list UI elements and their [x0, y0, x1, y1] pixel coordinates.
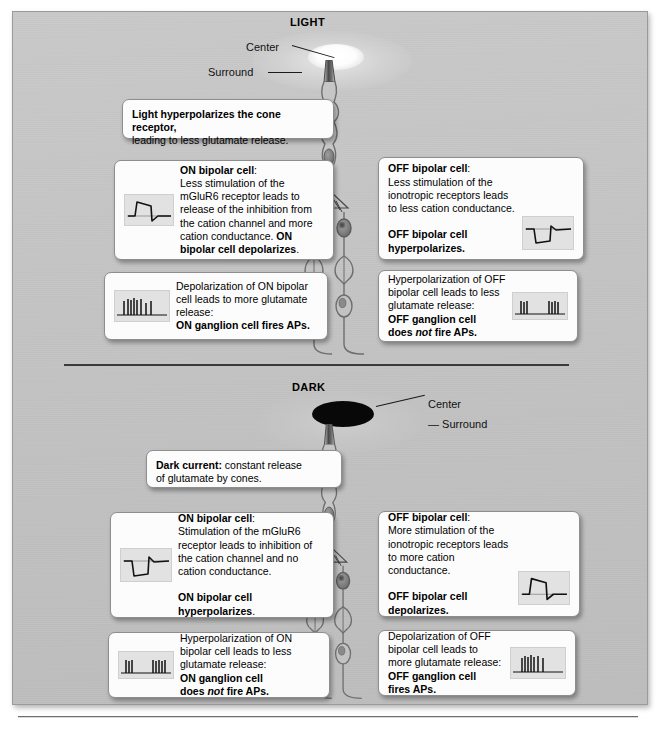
callout-dark-on-ganglion-c1: ON ganglion cell	[180, 672, 263, 684]
dark-surround-label: — Surround	[428, 418, 487, 430]
colon: :	[254, 164, 257, 176]
callout-light-off-bipolar-conclusion: OFF bipolar cell hyperpolarizes.	[388, 228, 467, 253]
callout-light-off-ganglion-body: Hyperpolarization of OFF bipolar cell le…	[388, 273, 505, 311]
hyperpolarizing-waveform-icon	[120, 548, 172, 582]
callout-dark-off-ganglion-c2: fires APs.	[388, 683, 436, 695]
callout-light-off-ganglion-c1: OFF ganglion cell	[388, 313, 476, 325]
callout-dark-on-bipolar-body: Stimulation of the mGluR6 receptor leads…	[178, 525, 312, 577]
callout-light-on-bipolar-heading: ON bipolar cell	[180, 164, 254, 176]
callout-dark-on-bipolar: ON bipolar cell: Stimulation of the mGlu…	[110, 512, 334, 618]
callout-light-cone: Light hyperpolarizes the cone receptor, …	[122, 99, 334, 139]
light-center-label: Center	[246, 41, 279, 53]
section-title-light: LIGHT	[290, 16, 325, 28]
callout-light-off-bipolar: OFF bipolar cell: Less stimulation of th…	[378, 157, 584, 260]
callout-dark-on-ganglion-body: Hyperpolarization of ON bipolar cell lea…	[180, 632, 292, 670]
callout-dark-on-bipolar-heading: ON bipolar cell	[178, 512, 252, 524]
callout-light-cone-line1: Light hyperpolarizes the cone receptor,	[132, 108, 281, 133]
colon: :	[467, 511, 470, 523]
callout-dark-off-bipolar-conclusion: OFF bipolar cell depolarizes.	[388, 590, 467, 615]
section-divider	[64, 364, 569, 366]
light-surround-label: Surround	[208, 66, 253, 78]
callout-dark-on-bipolar-conclusion: ON bipolar cell hyperpolarizes	[178, 591, 252, 616]
callout-light-on-ganglion-body: Depolarization of ON bipolar cell leads …	[176, 280, 308, 318]
callout-light-on-ganglion: Depolarization of ON bipolar cell leads …	[104, 272, 328, 340]
callout-dark-on-ganglion-italic: not	[207, 685, 223, 697]
callout-dark-current: Dark current: constant release of glutam…	[146, 450, 342, 488]
callout-light-on-bipolar-body: Less stimulation of the mGluR6 receptor …	[180, 177, 313, 242]
callout-dark-current-line1-rest: constant release	[222, 459, 302, 471]
callout-dark-off-ganglion: Depolarization of OFF bipolar cell leads…	[378, 630, 576, 696]
callout-dark-off-ganglion-c1: OFF ganglion cell	[388, 670, 476, 682]
callout-dark-current-line1-bold: Dark current:	[156, 459, 222, 471]
figure-root: LIGHT Center Surround	[0, 0, 660, 729]
depolarizing-waveform-icon	[518, 571, 570, 605]
callout-light-on-ganglion-conclusion: ON ganglion cell fires APs.	[176, 319, 310, 331]
callout-light-off-ganglion-c2: does	[388, 326, 415, 338]
spike-train-burst-icon	[510, 647, 566, 679]
depolarizing-waveform-icon	[124, 194, 174, 226]
spike-train-sparse-icon	[118, 651, 174, 679]
callout-light-off-bipolar-heading: OFF bipolar cell	[388, 162, 467, 174]
callout-dark-off-bipolar-heading: OFF bipolar cell	[388, 511, 467, 523]
spike-train-burst-icon	[114, 290, 170, 322]
hyperpolarizing-waveform-icon	[522, 216, 574, 250]
spike-train-sparse-icon	[512, 292, 568, 320]
callout-dark-off-ganglion-body: Depolarization of OFF bipolar cell leads…	[388, 630, 501, 668]
dark-center-label: Center	[428, 398, 461, 410]
callout-light-on-bipolar: ON bipolar cell: Less stimulation of the…	[114, 160, 334, 260]
callout-dark-on-ganglion-c2: does	[180, 685, 207, 697]
period: .	[252, 605, 255, 617]
callout-light-cone-line2: leading to less glutamate release.	[132, 134, 288, 146]
callout-dark-off-bipolar: OFF bipolar cell: More stimulation of th…	[378, 511, 580, 617]
callout-light-off-bipolar-body: Less stimulation of the ionotropic recep…	[388, 176, 515, 214]
callout-dark-on-ganglion-c3: fire APs.	[224, 685, 269, 697]
callout-dark-on-ganglion: Hyperpolarization of ON bipolar cell lea…	[108, 632, 330, 698]
callout-light-off-ganglion-italic: not	[415, 326, 431, 338]
figure-footer-rule	[18, 716, 638, 718]
callout-dark-current-line2: of glutamate by cones.	[156, 472, 262, 484]
period: .	[296, 243, 299, 255]
colon: :	[467, 162, 470, 174]
callout-dark-off-bipolar-body: More stimulation of the ionotropic recep…	[388, 524, 508, 576]
callout-light-off-ganglion: Hyperpolarization of OFF bipolar cell le…	[378, 270, 578, 342]
colon: :	[252, 512, 255, 524]
callout-light-off-ganglion-c3: fire APs.	[432, 326, 477, 338]
